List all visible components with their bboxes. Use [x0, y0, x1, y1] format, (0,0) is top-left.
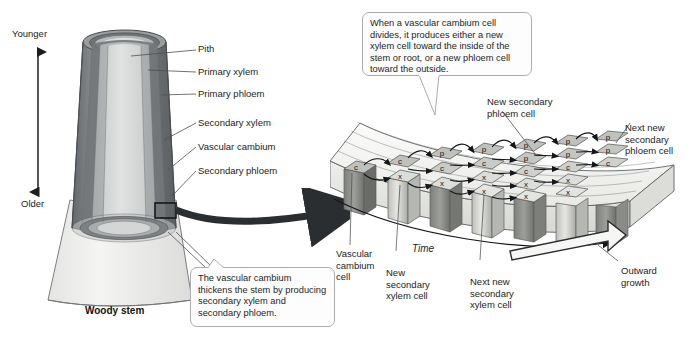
- callout-tail-right: [417, 75, 453, 117]
- svg-text:x: x: [566, 188, 570, 197]
- svg-text:c: c: [606, 159, 610, 168]
- label-vascular-cambium: Vascular cambium: [198, 141, 275, 153]
- svg-text:p: p: [566, 150, 571, 159]
- svg-text:c: c: [566, 163, 570, 172]
- cell-phloem: p: [472, 143, 504, 155]
- label-vascular-cambium-cell: Vascular cambium cell: [336, 248, 375, 283]
- svg-text:c: c: [524, 167, 528, 176]
- callout-cambium-divides: When a vascular cambium cell divides, it…: [362, 12, 532, 76]
- label-next-new-secondary-phloem-cell: Next new secondary phloem cell: [625, 122, 673, 157]
- svg-text:x: x: [440, 179, 444, 188]
- svg-text:p: p: [482, 145, 487, 154]
- label-outward-growth: Outward growth: [621, 265, 657, 288]
- label-primary-xylem: Primary xylem: [198, 66, 258, 78]
- svg-text:p: p: [440, 149, 445, 158]
- axis-label-younger: Younger: [12, 28, 47, 40]
- figure-root: Younger Older Pith Primary xylem Primary…: [0, 0, 698, 346]
- svg-text:p: p: [606, 133, 611, 142]
- label-secondary-xylem: Secondary xylem: [198, 117, 271, 129]
- svg-text:p: p: [606, 146, 611, 155]
- cell-stack-stage-3: p c x: [430, 147, 462, 190]
- callout-vascular-cambium-thickens: The vascular cambium thickens the stem b…: [190, 267, 335, 327]
- svg-text:c: c: [482, 159, 486, 168]
- svg-text:x: x: [398, 172, 402, 181]
- svg-text:p: p: [566, 137, 571, 146]
- woody-stem-caption: Woody stem: [85, 305, 144, 316]
- svg-text:p: p: [524, 154, 529, 163]
- cell-phloem: p: [556, 135, 588, 146]
- svg-text:x: x: [482, 187, 486, 196]
- svg-text:x: x: [524, 192, 528, 201]
- callout-tail-left: [205, 259, 231, 270]
- label-pith: Pith: [198, 43, 214, 55]
- svg-text:c: c: [354, 163, 358, 172]
- zoom-magnify-arrow: [170, 188, 350, 248]
- cell-cambium: c: [596, 157, 628, 168]
- svg-text:c: c: [398, 157, 402, 166]
- cell-phloem: p: [514, 139, 546, 151]
- label-time: Time: [412, 243, 434, 254]
- callout-right-text: When a vascular cambium cell divides, it…: [370, 18, 524, 76]
- age-axis-arrow: [26, 42, 50, 202]
- cell-phloem: p: [556, 148, 588, 159]
- svg-text:x: x: [566, 176, 570, 185]
- svg-text:x: x: [524, 180, 528, 189]
- axis-label-older: Older: [21, 198, 44, 210]
- label-secondary-phloem: Secondary phloem: [198, 165, 277, 177]
- stem-pith-core: [103, 44, 146, 225]
- label-primary-phloem: Primary phloem: [198, 88, 265, 100]
- cell-stack-stage-7: p p c: [596, 131, 628, 168]
- svg-text:c: c: [440, 164, 444, 173]
- cell-phloem: p: [596, 144, 628, 155]
- label-new-secondary-xylem-cell: New secondary xylem cell: [386, 267, 430, 302]
- svg-text:x: x: [482, 173, 486, 182]
- cell-phloem: p: [514, 152, 546, 164]
- callout-left-text: The vascular cambium thickens the stem b…: [198, 273, 327, 319]
- label-new-secondary-phloem-cell: New secondary phloem cell: [487, 96, 552, 119]
- label-next-new-secondary-xylem-cell: Next new secondary xylem cell: [470, 276, 514, 311]
